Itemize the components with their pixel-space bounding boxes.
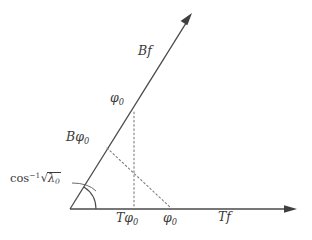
phi-symbol: φ [124, 210, 133, 225]
slanted-axis-label-prefix: B [138, 43, 147, 58]
phi-subscript: 0 [84, 136, 89, 146]
oblique-projection-dotted-line [107, 148, 171, 208]
figure-canvas [0, 0, 312, 240]
cos-inverse-exponent: −1 [29, 171, 40, 180]
horizontal-axis [70, 205, 297, 213]
angle-arc [84, 187, 96, 209]
axis-label-phi0: φ0 [163, 212, 177, 226]
lambda-symbol: λ [48, 171, 55, 185]
slanted-ray-arrowhead [181, 13, 192, 25]
axis-label-tphi0: Tφ0 [116, 212, 138, 226]
cos-operator: cos [10, 171, 29, 185]
lambda-subscript: 0 [55, 177, 60, 186]
phi-symbol: φ [110, 90, 119, 105]
slanted-axis-label: Bf [138, 45, 152, 58]
slanted-ray-line [70, 22, 187, 209]
horizontal-axis-label: Tf [218, 211, 231, 224]
geometry-figure: Bf φ0 Bφ0 cos−1√λ0 Tφ0 φ0 Tf [0, 0, 312, 240]
phi-symbol: φ [163, 210, 172, 225]
phi-symbol: φ [75, 129, 84, 144]
horizontal-axis-arrowhead [284, 205, 297, 213]
square-root: √λ0 [40, 172, 61, 186]
phi-subscript: 0 [133, 217, 138, 227]
phi-subscript: 0 [172, 217, 177, 227]
slanted-ray [70, 13, 192, 209]
slanted-axis-label-suffix: f [147, 43, 152, 58]
point-label-phi0-on-ray: φ0 [110, 92, 124, 106]
phi-subscript: 0 [119, 97, 124, 107]
radicand: λ0 [47, 172, 61, 186]
b-operator-symbol: B [66, 129, 75, 144]
horizontal-axis-label-suffix: f [226, 209, 231, 224]
angle-label: cos−1√λ0 [10, 172, 61, 186]
point-label-bphi0-on-ray: Bφ0 [66, 131, 89, 145]
